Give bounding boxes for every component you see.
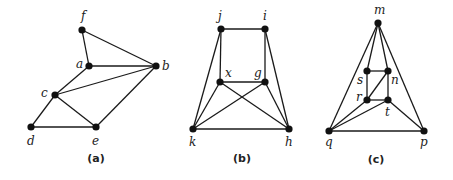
edge-r-n [367,71,388,100]
edge-f-b [82,30,156,66]
vertex-label-g: g [254,66,262,80]
vertex-r [363,96,370,103]
vertex-label-q: q [325,135,333,149]
vertex-label-s: s [357,73,363,87]
vertex-label-t: t [385,105,390,119]
edge-m-n [378,23,388,71]
vertex-m [374,19,381,26]
vertex-label-k: k [189,135,196,149]
edge-r-q [329,100,367,131]
caption-b: (b) [233,152,251,165]
edge-m-q [329,23,378,131]
edge-m-s [367,23,378,71]
edge-g-h [265,82,289,129]
graph-c: msnrtqp(c) [325,3,428,166]
vertex-h [285,125,292,132]
vertex-g [261,78,268,85]
vertex-p [420,127,427,134]
vertex-s [363,67,370,74]
edge-j-x [220,29,221,82]
vertex-i [261,25,268,32]
vertex-k [189,125,196,132]
caption-c: (c) [368,153,385,166]
vertex-a [85,62,92,69]
vertex-label-n: n [391,73,399,87]
vertex-label-j: j [215,9,222,23]
vertex-f [78,26,85,33]
vertex-label-d: d [27,134,35,148]
graph-b: jixgkh(b) [189,9,293,165]
vertex-label-x: x [225,66,232,80]
vertex-label-p: p [420,135,428,149]
edge-t-q [329,100,388,131]
graph-figure: fabcde(a) jixgkh(b) msnrtqp(c) [0,0,453,180]
edge-c-e [55,95,96,127]
vertex-t [384,96,391,103]
vertex-label-b: b [162,59,170,73]
vertex-label-e: e [92,134,99,148]
vertex-label-m: m [374,3,385,17]
vertex-label-c: c [41,86,48,100]
vertex-label-f: f [80,9,88,23]
vertex-label-a: a [76,57,83,71]
caption-a: (a) [87,152,104,165]
vertex-e [92,123,99,130]
vertex-j [217,25,224,32]
vertex-b [152,62,159,69]
vertex-label-i: i [263,9,267,23]
edge-i-h [265,29,289,129]
edge-t-p [388,100,424,131]
vertex-d [27,123,34,130]
vertex-c [51,91,58,98]
vertex-label-h: h [285,135,293,149]
vertex-label-r: r [356,90,363,104]
graph-a: fabcde(a) [27,9,170,165]
vertex-q [325,127,332,134]
vertex-x [216,78,223,85]
edge-x-k [193,82,220,129]
